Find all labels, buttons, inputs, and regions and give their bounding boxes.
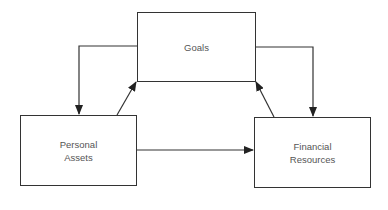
personal-assets-label: Personal Assets (60, 138, 98, 164)
flow-diagram: Goals Personal Assets Financial Resource… (0, 0, 388, 210)
financial-resources-box: Financial Resources (254, 117, 371, 188)
goals-label: Goals (184, 41, 209, 54)
goals-box: Goals (137, 12, 256, 82)
edge-goals-to-financial-resources (255, 47, 313, 116)
edge-financial-resources-to-goals (256, 82, 274, 117)
edge-personal-assets-to-goals (117, 82, 136, 115)
personal-assets-box: Personal Assets (20, 115, 137, 186)
edge-goals-to-personal-assets (79, 46, 137, 114)
financial-resources-label: Financial Resources (290, 140, 335, 166)
